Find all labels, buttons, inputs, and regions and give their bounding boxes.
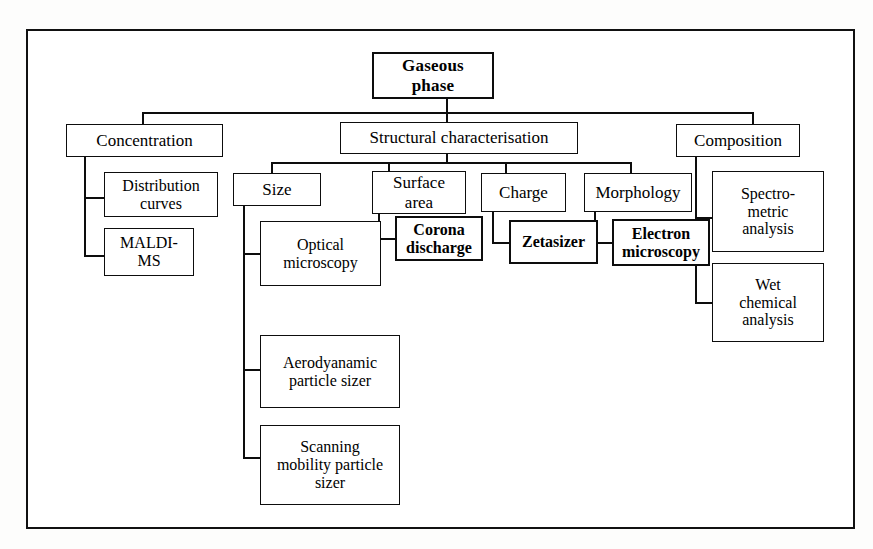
node-corona-discharge-label: Corona discharge bbox=[399, 221, 479, 257]
node-maldi-ms-label: MALDI- MS bbox=[107, 234, 191, 270]
connector-drop-concentration bbox=[142, 112, 144, 124]
connector-size-to-aerodynamic bbox=[243, 369, 260, 371]
node-morphology-label: Morphology bbox=[587, 183, 689, 202]
node-corona-discharge[interactable]: Corona discharge bbox=[395, 216, 483, 261]
node-distribution-curves-label: Distribution curves bbox=[107, 177, 215, 213]
connector-drop-morphology bbox=[630, 162, 632, 173]
node-spectrometric-analysis-label: Spectro- metric analysis bbox=[715, 185, 821, 239]
connector-drop-composition bbox=[752, 112, 754, 124]
node-zetasizer[interactable]: Zetasizer bbox=[509, 220, 598, 264]
connector-charge-to-zetasizer bbox=[492, 242, 509, 244]
connector-size-to-optical bbox=[243, 253, 260, 255]
node-optical-microscopy[interactable]: Optical microscopy bbox=[260, 221, 381, 286]
connector-size-to-scanning bbox=[243, 457, 260, 459]
connector-drop-structural bbox=[446, 112, 448, 122]
connector-concentration-spine bbox=[84, 157, 86, 256]
node-maldi-ms[interactable]: MALDI- MS bbox=[104, 228, 194, 276]
connector-concentration-to-distribution bbox=[84, 197, 104, 199]
node-wet-chemical-analysis[interactable]: Wet chemical analysis bbox=[712, 263, 824, 342]
node-surface-area[interactable]: Surface area bbox=[372, 171, 466, 214]
connector-composition-to-wet bbox=[695, 302, 712, 304]
node-concentration-label: Concentration bbox=[69, 131, 220, 150]
node-charge[interactable]: Charge bbox=[481, 173, 566, 212]
diagram-canvas: Gaseous phase Concentration Structural c… bbox=[0, 0, 873, 549]
connector-level2-bus bbox=[271, 162, 631, 164]
node-charge-label: Charge bbox=[484, 183, 563, 202]
node-gaseous-phase[interactable]: Gaseous phase bbox=[372, 52, 494, 99]
node-structural-characterisation-label: Structural characterisation bbox=[343, 128, 575, 147]
node-composition-label: Composition bbox=[679, 131, 797, 150]
node-electron-microscopy[interactable]: Electron microscopy bbox=[612, 219, 710, 266]
node-morphology[interactable]: Morphology bbox=[584, 173, 692, 212]
node-concentration[interactable]: Concentration bbox=[66, 124, 223, 157]
node-scanning-mobility-particle-sizer[interactable]: Scanning mobility particle sizer bbox=[260, 425, 400, 505]
node-distribution-curves[interactable]: Distribution curves bbox=[104, 172, 218, 217]
connector-concentration-to-maldi bbox=[84, 255, 104, 257]
node-scanning-mobility-particle-sizer-label: Scanning mobility particle sizer bbox=[263, 438, 397, 492]
connector-charge-spine bbox=[492, 211, 494, 243]
connector-root-stem bbox=[446, 99, 448, 113]
node-structural-characterisation[interactable]: Structural characterisation bbox=[340, 122, 578, 154]
node-gaseous-phase-label: Gaseous phase bbox=[376, 56, 490, 94]
node-spectrometric-analysis[interactable]: Spectro- metric analysis bbox=[712, 171, 824, 252]
node-aerodyanamic-particle-sizer[interactable]: Aerodyanamic particle sizer bbox=[260, 335, 400, 408]
node-surface-area-label: Surface area bbox=[375, 173, 463, 211]
node-electron-microscopy-label: Electron microscopy bbox=[616, 225, 706, 261]
node-composition[interactable]: Composition bbox=[676, 124, 800, 157]
node-size[interactable]: Size bbox=[233, 173, 321, 206]
node-zetasizer-label: Zetasizer bbox=[513, 233, 594, 251]
node-size-label: Size bbox=[236, 180, 318, 199]
node-aerodyanamic-particle-sizer-label: Aerodyanamic particle sizer bbox=[263, 354, 397, 390]
node-optical-microscopy-label: Optical microscopy bbox=[263, 236, 378, 272]
connector-drop-charge bbox=[505, 162, 507, 173]
connector-drop-size bbox=[271, 162, 273, 173]
connector-size-spine bbox=[243, 205, 245, 458]
node-wet-chemical-analysis-label: Wet chemical analysis bbox=[715, 276, 821, 330]
